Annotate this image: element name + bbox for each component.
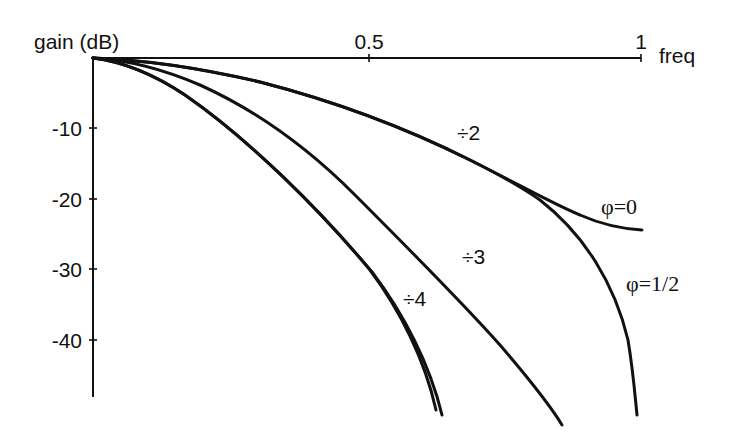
y-tick-label-minus20: -20 [52,188,82,211]
curve-div2-phi-half [93,58,637,415]
label-phi-half: φ=1/2 [626,271,679,296]
axes [89,54,641,397]
gain-vs-frequency-chart: gain (dB) freq 0.5 1 -10 -20 -30 -40 ÷2 … [0,0,732,444]
x-tick-label-0.5: 0.5 [354,30,383,53]
curve-div2-phi0 [93,58,642,230]
y-tick-label-minus10: -10 [52,117,82,140]
y-tick-label-minus30: -30 [52,258,82,281]
curve-div3 [93,58,562,425]
curves [93,58,642,425]
label-div3: ÷3 [462,245,485,268]
y-tick-label-minus40: -40 [52,329,82,352]
curve-div4-a [93,58,436,410]
label-phi-0: φ=0 [601,194,637,219]
x-axis-label: freq [659,44,695,67]
y-axis-label: gain (dB) [34,30,119,53]
x-tick-label-1: 1 [635,30,647,53]
label-div4: ÷4 [403,287,427,310]
curve-div4-b [93,58,442,415]
label-div2: ÷2 [457,121,480,144]
